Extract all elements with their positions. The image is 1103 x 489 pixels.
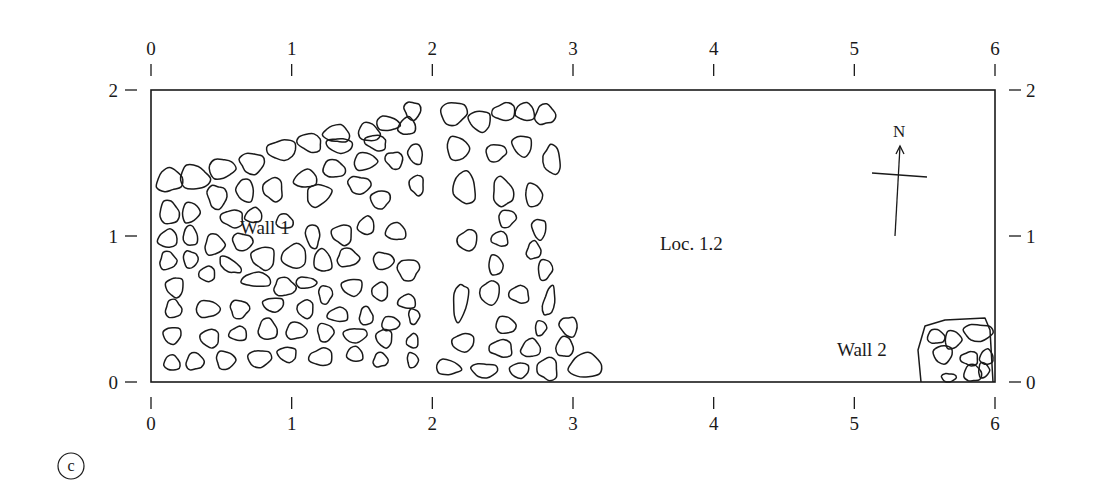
stone-outline — [337, 248, 360, 267]
stone-outline — [557, 315, 579, 339]
stone-outline — [258, 318, 277, 339]
stone-outline — [160, 200, 180, 223]
stone-outline — [373, 352, 388, 367]
stone-outline — [927, 329, 945, 343]
wall2-label: Wall 2 — [837, 339, 887, 360]
stone-outline — [297, 300, 313, 319]
stone-outline — [248, 351, 272, 368]
stone-outline — [183, 225, 197, 245]
stone-outline — [535, 104, 556, 125]
stone-outline — [447, 136, 469, 160]
stone-outline — [281, 243, 305, 268]
stone-outline — [323, 160, 346, 177]
stone-outline — [304, 224, 322, 250]
stone-outline — [359, 306, 373, 324]
stone-outline — [554, 335, 576, 359]
stone-outline — [357, 121, 382, 142]
stone-outline — [216, 253, 244, 277]
stone-outline — [489, 255, 503, 275]
stone-outline — [489, 339, 512, 357]
x-tick-label: 6 — [990, 38, 1000, 59]
stone-outline — [341, 279, 362, 296]
bottom-scale-axis: 0123456 — [146, 397, 1000, 434]
stone-outline — [541, 284, 558, 316]
stone-outline — [499, 210, 517, 228]
y-tick-label: 2 — [109, 80, 119, 101]
stone-outline — [293, 169, 316, 187]
locus-label: Loc. 1.2 — [660, 233, 723, 254]
stone-outline — [373, 252, 394, 269]
stone-outline — [157, 229, 177, 248]
stone-outline — [396, 258, 422, 283]
stone-outline — [449, 283, 470, 323]
stone-outline — [512, 136, 532, 157]
stone-outline — [376, 330, 392, 349]
stone-outline — [199, 266, 215, 282]
stone-outline — [327, 307, 348, 321]
stone-outline — [311, 247, 332, 272]
stone-outline — [526, 183, 543, 207]
stone-outline — [406, 333, 418, 348]
stone-outline — [409, 175, 423, 196]
left-scale-axis: 012 — [109, 80, 138, 393]
stone-outline — [520, 338, 540, 356]
stone-outline — [468, 111, 490, 132]
stone-outline — [537, 357, 557, 381]
stone-outline — [398, 294, 416, 308]
stone-outline — [200, 329, 219, 348]
stone-outline — [348, 176, 371, 194]
wall1-label: Wall 1 — [240, 217, 290, 238]
stone-outline — [346, 346, 363, 361]
panel-label-badge: c — [58, 453, 84, 479]
stone-outline — [471, 364, 498, 378]
stone-outline — [296, 277, 317, 288]
stone-outline — [251, 247, 274, 270]
stone-outline — [568, 352, 602, 377]
y-tick-label: 1 — [109, 226, 119, 247]
stone-outline — [382, 316, 400, 330]
stone-outline — [372, 282, 388, 301]
stone-outline — [183, 251, 198, 268]
x-tick-label: 0 — [146, 413, 156, 434]
stone-outline — [407, 352, 418, 367]
x-tick-label: 2 — [428, 38, 438, 59]
stone-outline — [383, 149, 406, 172]
stone-outline — [233, 177, 257, 205]
north-label: N — [893, 122, 905, 141]
panel-label: c — [67, 457, 74, 474]
stone-outline — [277, 347, 296, 362]
stone-outline — [538, 260, 552, 281]
x-tick-label: 3 — [568, 38, 578, 59]
stone-outline — [492, 102, 515, 120]
stone-outline — [165, 299, 182, 317]
x-tick-label: 6 — [990, 413, 1000, 434]
stone-outline — [385, 222, 405, 239]
stone-outline — [241, 272, 271, 286]
stone-outline — [409, 309, 420, 324]
stone-outline — [435, 358, 463, 377]
stone-outline — [230, 300, 250, 318]
x-tick-label: 1 — [287, 38, 297, 59]
stone-outline — [540, 143, 562, 176]
stone-outline — [205, 234, 225, 255]
x-tick-label: 3 — [568, 413, 578, 434]
north-arrow-icon: N — [872, 122, 927, 236]
stone-outline — [509, 285, 529, 303]
stone-outline — [196, 300, 220, 317]
stone-outline — [331, 225, 351, 246]
stone-outline — [509, 363, 528, 378]
stone-outline — [164, 355, 180, 370]
stone-outline — [160, 251, 177, 270]
stone-outline — [536, 321, 547, 336]
stone-outline — [229, 326, 247, 341]
stone-outline — [343, 329, 367, 343]
y-tick-label: 2 — [1026, 80, 1036, 101]
x-tick-label: 4 — [709, 38, 719, 59]
x-tick-label: 0 — [146, 38, 156, 59]
x-tick-label: 5 — [850, 413, 860, 434]
stone-outline — [496, 316, 516, 333]
stone-outline — [183, 202, 201, 223]
stone-outline — [267, 140, 296, 161]
stone-outline — [304, 180, 336, 209]
stone-outline — [405, 142, 426, 167]
